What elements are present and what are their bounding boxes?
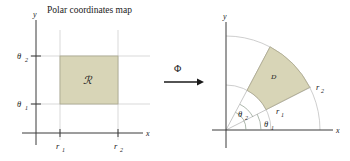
xtick-label-r2: r 2 — [114, 141, 123, 153]
angle-theta1-base: θ — [264, 119, 268, 129]
angle-theta1-sub: 1 — [271, 125, 274, 131]
xtick-r1-base: r — [56, 141, 60, 151]
right-panel-group: y x θ 2 θ 1 r 1 r 2 — [212, 12, 340, 148]
figure-canvas: Polar coordinates map y x θ 2 — [0, 0, 350, 161]
radius-r2-base: r — [316, 82, 320, 92]
right-x-axis-label: x — [335, 126, 340, 135]
right-y-axis-label: y — [222, 12, 227, 21]
xtick-label-r1: r 1 — [56, 141, 65, 153]
polar-coordinates-map-figure: Polar coordinates map y x θ 2 — [0, 0, 350, 161]
map-arrow-head — [197, 79, 204, 86]
ytick-theta1-sub: 1 — [25, 105, 28, 111]
angle-theta2-base: θ — [238, 109, 242, 119]
radius-label-r1: r 1 — [276, 106, 284, 118]
left-panel-group: y x θ 2 θ 1 r 1 r 2 — [17, 10, 150, 153]
ytick-label-theta2: θ 2 — [17, 51, 28, 63]
xtick-r2-sub: 2 — [120, 147, 123, 153]
ytick-theta2-base: θ — [17, 51, 21, 61]
left-x-axis-label: x — [145, 129, 150, 138]
radius-label-r2: r 2 — [316, 82, 324, 94]
ytick-label-theta1: θ 1 — [17, 99, 28, 111]
radius-r1-base: r — [276, 106, 280, 116]
ytick-theta1-base: θ — [17, 99, 21, 109]
ytick-theta2-sub: 2 — [25, 57, 28, 63]
figure-title: Polar coordinates map — [47, 5, 132, 15]
radius-r2-sub: 2 — [321, 88, 324, 94]
angle-label-theta1: θ 1 — [264, 119, 274, 131]
left-y-axis-label: y — [32, 10, 37, 19]
region-R-label: ℛ — [83, 74, 93, 87]
region-D-sector — [247, 47, 310, 110]
map-arrow-label: Φ — [174, 63, 181, 74]
angle-theta2-sub: 2 — [245, 115, 248, 121]
xtick-r1-sub: 1 — [62, 147, 65, 153]
angle-arc-theta1 — [257, 114, 261, 130]
radius-r1-sub: 1 — [281, 112, 284, 118]
xtick-r2-base: r — [114, 141, 118, 151]
region-D-label: ᴰ — [270, 73, 277, 86]
map-arrow-group: Φ — [164, 63, 204, 86]
